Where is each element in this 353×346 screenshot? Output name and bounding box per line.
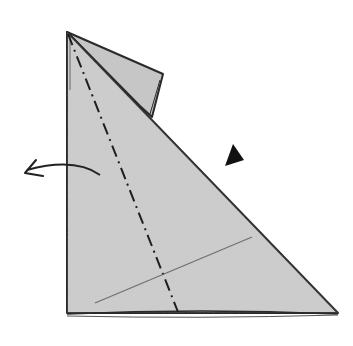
- origami-diagram: [0, 0, 353, 346]
- folded-paper-triangle: [67, 32, 338, 317]
- push-arrow-icon: [225, 144, 244, 166]
